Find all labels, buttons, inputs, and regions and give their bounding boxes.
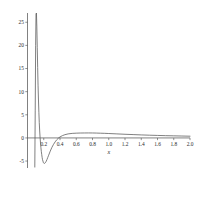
x-tick-label: 1.2 <box>122 141 129 147</box>
y-tick-label: 15 <box>19 65 25 71</box>
x-axis-title: x <box>106 149 110 155</box>
y-tick-label: -5 <box>19 158 24 164</box>
x-tick-label: 0.4 <box>57 141 64 147</box>
x-tick-label: 0.2 <box>40 141 47 147</box>
x-tick-label: 2.0 <box>187 141 194 147</box>
y-tick-label: 0 <box>21 135 24 141</box>
y-tick-label: 25 <box>19 19 25 25</box>
x-tick-label: 0.6 <box>73 141 80 147</box>
x-tick-label: 1.4 <box>138 141 145 147</box>
y-tick-label: 5 <box>21 112 24 118</box>
x-tick-label: 1.0 <box>105 141 112 147</box>
line-chart: -50510152025 0.20.40.60.81.01.21.41.61.8… <box>0 0 197 200</box>
y-axis-ticks: -50510152025 <box>19 19 28 164</box>
x-axis-ticks: 0.20.40.60.81.01.21.41.61.82.0 <box>40 138 193 147</box>
chart-figure: -50510152025 0.20.40.60.81.01.21.41.61.8… <box>0 0 197 200</box>
y-tick-label: 20 <box>19 42 25 48</box>
x-tick-label: 0.8 <box>89 141 96 147</box>
x-tick-label: 1.6 <box>154 141 161 147</box>
y-tick-label: 10 <box>19 89 25 95</box>
x-tick-label: 1.8 <box>170 141 177 147</box>
